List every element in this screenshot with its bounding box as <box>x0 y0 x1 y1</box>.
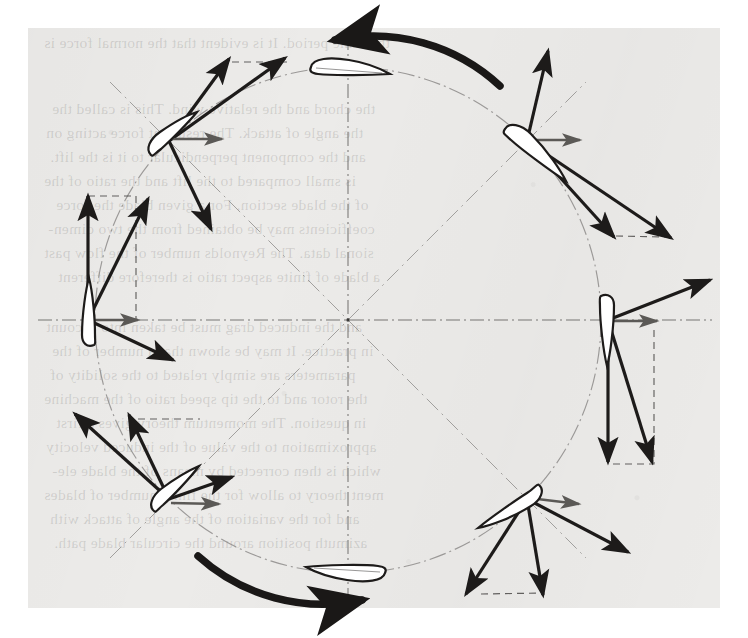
blade-station-left <box>82 196 173 360</box>
figure-page: the same period. It is evident that the … <box>0 0 748 638</box>
blade-station-bottom <box>306 565 386 581</box>
blade-station-upper-right <box>504 51 671 238</box>
vector-resultant <box>527 51 548 141</box>
blade-bottom <box>306 565 386 581</box>
vector-relative-wind <box>527 499 543 595</box>
airfoil-outline <box>82 278 95 346</box>
blade-top <box>310 58 390 75</box>
vector-resultant <box>527 499 628 552</box>
blade-station-upper-left <box>148 58 290 229</box>
blade-station-top <box>310 58 390 75</box>
vector-resultant <box>88 199 148 320</box>
blade-station-lower-left <box>75 414 232 512</box>
parallelogram-closure-upper-right <box>616 236 667 237</box>
vector-resultant <box>169 58 285 141</box>
vector-resultant <box>608 280 710 320</box>
airfoil-outline <box>600 295 614 366</box>
blade-right <box>600 295 614 366</box>
vector-relative-wind <box>608 320 652 462</box>
vector-resultant <box>75 414 169 499</box>
airfoil-outline <box>306 565 386 581</box>
vector-rotational <box>169 141 211 229</box>
blade-left <box>82 278 95 346</box>
blade-station-right <box>600 280 710 464</box>
parallelogram-closure-lower-right <box>481 593 543 594</box>
blade-station-lower-right <box>466 485 628 595</box>
rotor-velocity-diagram <box>0 0 748 638</box>
rotor-center-marker <box>346 318 350 322</box>
vector-freestream <box>171 503 219 504</box>
vector-relative-wind <box>88 320 173 360</box>
